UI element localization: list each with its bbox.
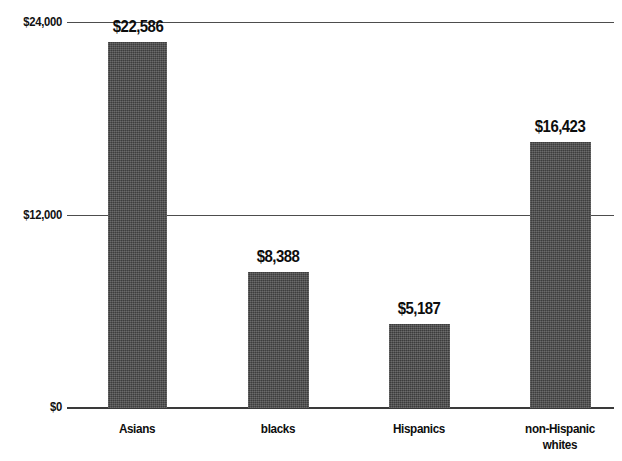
bar-value-label-blacks: $8,388 xyxy=(225,247,331,267)
bar-value-label-hispanics: $5,187 xyxy=(366,299,472,319)
y-axis-tick-12000: $12,000 xyxy=(0,208,62,222)
x-axis-label-asians: Asians xyxy=(83,421,191,437)
bar-value-label-asians: $22,586 xyxy=(85,17,191,37)
bar-asians xyxy=(108,42,167,408)
bar-hispanics xyxy=(389,324,450,408)
bar-chart: $24,000 $12,000 $0 $22,586 $8,388 $5,187… xyxy=(0,0,622,461)
y-axis-tick-0: $0 xyxy=(0,400,62,414)
bar-value-label-non-hispanic-whites: $16,423 xyxy=(507,117,613,137)
bar-blacks xyxy=(248,272,309,408)
x-axis-label-blacks: blacks xyxy=(224,421,332,437)
x-axis-label-non-hispanic-whites: non-Hispanic whites xyxy=(506,421,614,453)
bar-non-hispanic-whites xyxy=(530,142,591,408)
x-axis-label-hispanics: Hispanics xyxy=(365,421,473,437)
y-axis-tick-24000: $24,000 xyxy=(0,15,62,29)
